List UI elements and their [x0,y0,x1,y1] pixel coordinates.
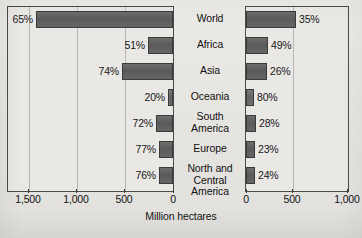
category-label-africa: Africa [176,39,244,51]
bar-row-asia-left: 74% [8,59,173,85]
bar-row-north-central-america-left: 76% [8,163,173,189]
bar-row-world-left: 65% [8,7,173,33]
bar-label-europe-right: 23% [255,142,278,157]
bar-label-south-america-right: 28% [256,116,279,131]
bar-row-south-america-left: 72% [8,111,173,137]
bar-label-world-left: 65% [13,12,36,27]
bar-label-oceania-left: 20% [145,90,168,105]
bar-world-left [36,11,173,28]
right-x-axis: 0 500 1,000 [245,193,349,207]
category-label-north-central-america-line1: North and [176,163,244,175]
bar-oceania-right [246,89,254,106]
bar-oceania-left [168,89,173,106]
tick-label-left-1000: 1,000 [63,193,88,205]
bar-north-central-america-right [246,167,255,184]
bar-row-africa-right: 49% [246,33,348,59]
bar-label-north-central-america-left: 76% [136,168,159,183]
tick-label-right-1000: 1,000 [334,193,359,205]
bar-africa-right [246,37,268,54]
bar-row-oceania-right: 80% [246,85,348,111]
category-label-north-central-america-line3: America [176,186,244,198]
bar-row-north-central-america-right: 24% [246,163,348,189]
bar-south-america-right [246,115,256,132]
bar-row-europe-right: 23% [246,137,348,163]
left-x-axis: 1,500 1,000 500 0 [7,193,174,207]
bar-label-oceania-right: 80% [254,90,277,105]
x-axis-title: Million hectares [0,210,362,222]
bar-asia-right [246,63,267,80]
tick-label-left-1500: 1,500 [15,193,40,205]
category-label-oceania: Oceania [176,91,244,103]
bar-label-asia-right: 26% [267,64,290,79]
bar-row-oceania-left: 20% [8,85,173,111]
tick-label-right-500: 500 [284,193,301,205]
bar-africa-left [148,37,173,54]
category-label-south-america: South America [176,111,244,134]
category-label-south-america-line1: South [176,111,244,123]
bar-label-europe-left: 77% [136,142,159,157]
bar-row-world-right: 35% [246,7,348,33]
bar-europe-right [246,141,255,158]
category-label-asia: Asia [176,65,244,77]
bar-world-right [246,11,296,28]
bar-label-africa-left: 51% [125,38,148,53]
bar-asia-left [122,63,173,80]
bar-label-asia-left: 74% [99,64,122,79]
bar-label-africa-right: 49% [268,38,291,53]
bar-row-south-america-right: 28% [246,111,348,137]
bar-label-north-central-america-right: 24% [255,168,278,183]
bar-south-america-left [156,115,173,132]
bar-north-central-america-left [159,167,173,184]
category-label-world: World [176,13,244,25]
category-label-south-america-line2: America [176,123,244,135]
tick-label-left-500: 500 [116,193,133,205]
right-plot-area: 35% 49% 26% 80% 28% 23% 24% [245,6,349,192]
mirrored-bar-chart: 65% 51% 74% 20% 72% 77% 76% World Afric [0,0,362,238]
bar-label-south-america-left: 72% [133,116,156,131]
bar-row-africa-left: 51% [8,33,173,59]
category-label-europe: Europe [176,143,244,155]
tick-label-right-0: 0 [243,193,249,205]
left-plot-area: 65% 51% 74% 20% 72% 77% 76% [7,6,174,192]
bar-row-europe-left: 77% [8,137,173,163]
bar-row-asia-right: 26% [246,59,348,85]
category-label-north-central-america: North and Central America [176,163,244,198]
bar-label-world-right: 35% [296,12,319,27]
tick-label-left-0: 0 [170,193,176,205]
category-label-column: World Africa Asia Oceania South America … [176,6,244,192]
bar-europe-left [159,141,173,158]
